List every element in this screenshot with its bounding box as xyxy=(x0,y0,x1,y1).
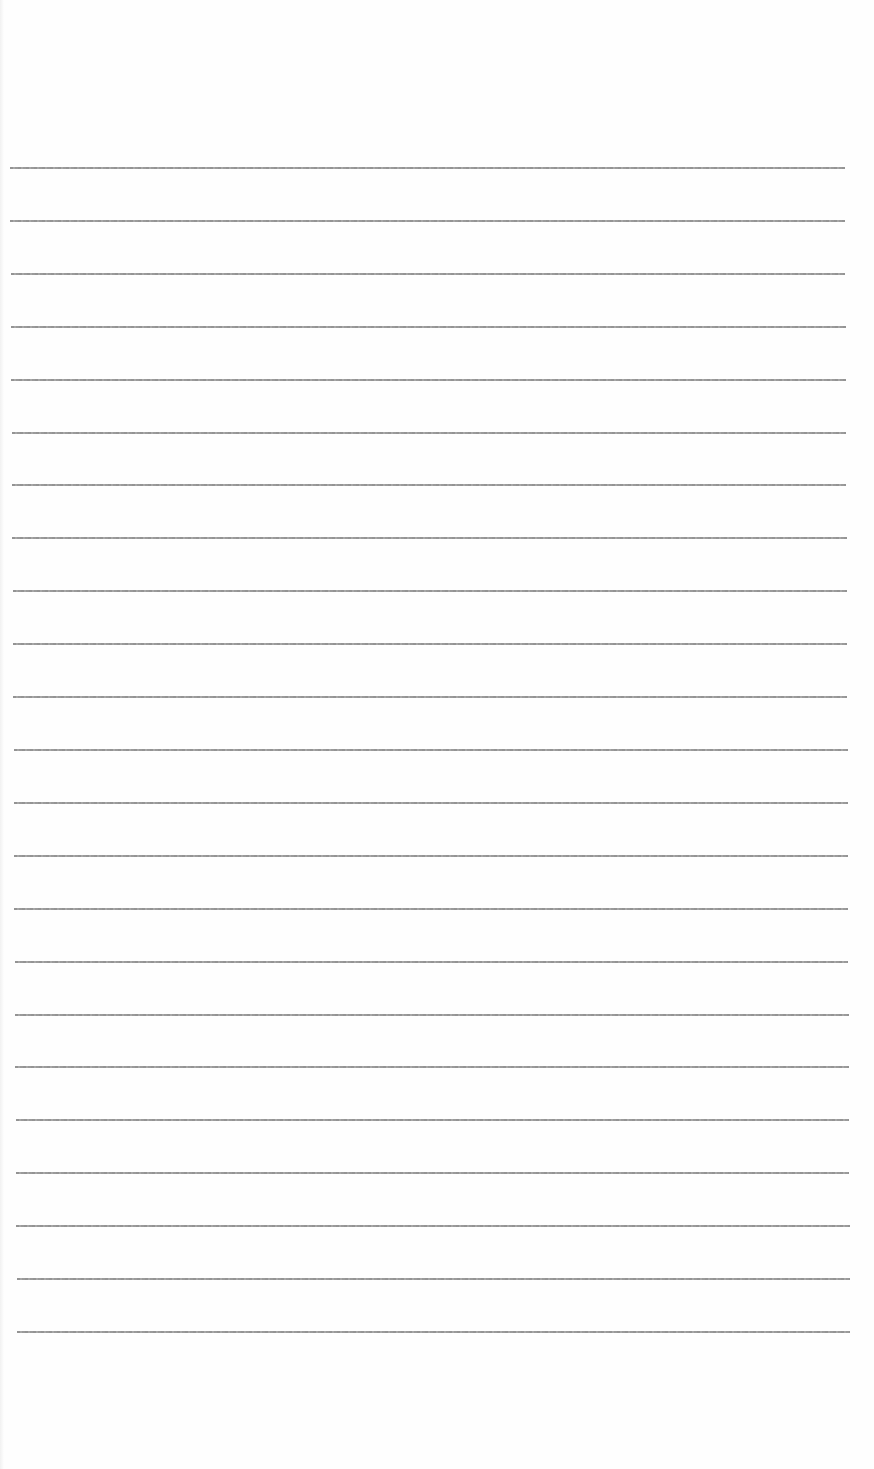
ruled-line xyxy=(15,1066,848,1068)
ruled-line xyxy=(13,590,847,592)
page-left-edge-shadow xyxy=(0,0,4,1469)
ruled-line xyxy=(13,643,847,645)
ruled-line xyxy=(16,1119,849,1121)
ruled-line xyxy=(16,1172,849,1174)
ruled-line xyxy=(13,696,847,698)
ruled-line xyxy=(16,1225,849,1227)
ruled-line xyxy=(10,167,845,169)
ruled-line xyxy=(14,908,848,910)
ruled-line xyxy=(12,484,846,486)
ruled-line xyxy=(11,379,846,381)
ruled-line xyxy=(14,749,848,751)
ruled-line xyxy=(10,220,845,222)
ruled-line xyxy=(15,961,849,963)
ruled-line xyxy=(11,273,846,275)
ruled-line xyxy=(11,326,846,328)
ruled-page xyxy=(0,0,874,1469)
ruled-line xyxy=(17,1278,850,1280)
ruled-line xyxy=(15,1014,849,1016)
ruled-line xyxy=(12,432,847,434)
ruled-line xyxy=(12,537,846,539)
ruled-line xyxy=(14,855,848,857)
ruled-line xyxy=(14,802,848,804)
ruled-line xyxy=(17,1331,850,1333)
